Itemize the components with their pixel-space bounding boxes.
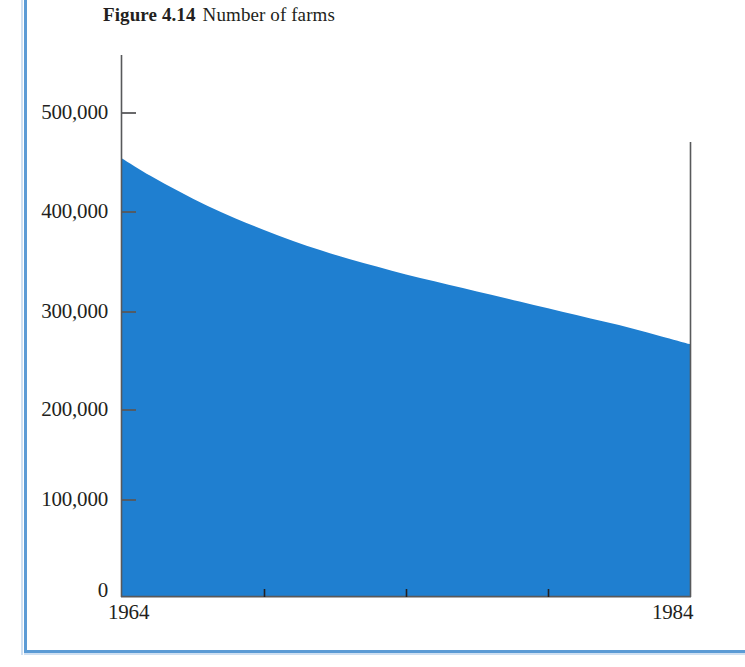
y-tick-label-0: 0 xyxy=(6,578,108,603)
x-tick-label-1964: 1964 xyxy=(108,600,149,625)
area-chart-svg xyxy=(0,0,745,667)
y-tick-label-300000: 300,000 xyxy=(6,299,108,324)
y-tick-label-100000: 100,000 xyxy=(6,487,108,512)
area-series-fill xyxy=(122,158,690,596)
figure-page: Figure 4.14Number of farms xyxy=(0,0,745,667)
y-tick-label-200000: 200,000 xyxy=(6,397,108,422)
chart-plot-area: 500,000 400,000 300,000 200,000 100,000 … xyxy=(0,0,745,667)
y-tick-label-500000: 500,000 xyxy=(6,100,108,125)
y-tick-label-400000: 400,000 xyxy=(6,199,108,224)
x-tick-label-1984: 1984 xyxy=(652,600,693,625)
